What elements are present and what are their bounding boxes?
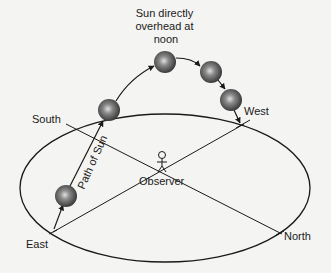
observer-label: Observer (139, 175, 185, 187)
sun-icon (220, 89, 242, 111)
south-label: South (32, 113, 61, 125)
path-segment-6 (234, 110, 240, 123)
sun-icon (55, 185, 77, 207)
path-segment-3 (116, 66, 154, 101)
sun-path-diagram: Sun directly overhead at noon South West… (0, 0, 331, 273)
sun-path (54, 58, 240, 229)
sun-icon (200, 61, 222, 83)
west-label: West (244, 105, 269, 117)
path-segment-5 (218, 80, 225, 89)
path-segment-1 (54, 205, 63, 229)
north-label: North (284, 230, 311, 242)
noon-annotation: Sun directly overhead at noon (135, 7, 196, 45)
east-tick (49, 230, 57, 234)
sun-icon-noon (154, 51, 176, 73)
path-segment-4 (176, 58, 200, 66)
sun-icon (98, 99, 120, 121)
east-label: East (26, 238, 48, 250)
